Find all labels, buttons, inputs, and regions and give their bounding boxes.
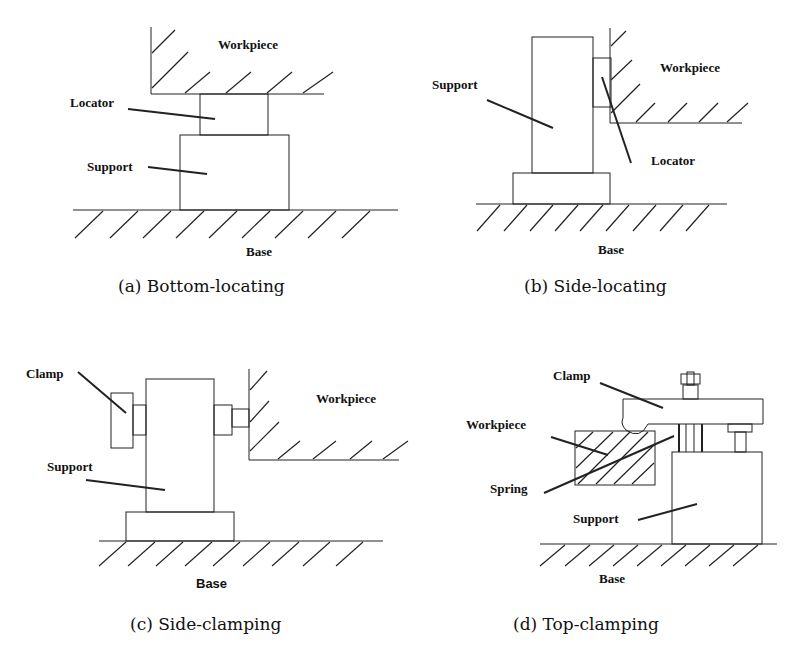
panel-d-spring-label: Spring [490,482,528,495]
panel-a-caption: (a) Bottom-locating [118,278,285,295]
panel-b-base-label: Base [598,243,624,256]
panel-d-drawing [540,372,777,566]
panel-d-caption: (d) Top-clamping [513,616,659,633]
panel-c-support-label: Support [47,460,93,473]
panel-a-workpiece-label: Workpiece [218,38,278,51]
panel-a-support-label: Support [87,160,133,173]
panel-a-base-label: Base [246,245,272,258]
panel-d-workpiece-label: Workpiece [466,418,526,431]
fixture-diagram [0,0,793,672]
panel-b-caption: (b) Side-locating [524,278,667,295]
panel-a-locator-label: Locator [70,96,114,109]
panel-b-drawing [476,28,748,231]
panel-c-base-label: Base [196,577,227,590]
panel-d-support-label: Support [573,512,619,525]
panel-b-workpiece-label: Workpiece [660,61,720,74]
panel-b-locator-label: Locator [651,154,695,167]
panel-c-caption: (c) Side-clamping [130,616,281,633]
panel-c-workpiece-label: Workpiece [316,392,376,405]
panel-a-drawing [73,27,398,238]
panel-d-base-label: Base [599,572,625,585]
panel-b-support-label: Support [432,78,478,91]
panel-c-clamp-label: Clamp [26,367,64,380]
panel-d-clamp-label: Clamp [553,369,591,382]
